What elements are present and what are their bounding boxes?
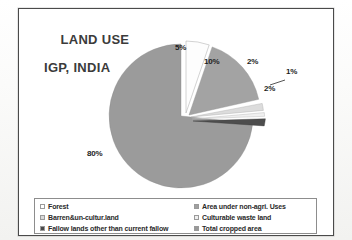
legend-label: Culturable waste land [202,213,271,222]
legend-item-culturable-waste-land[interactable]: Culturable waste land [193,212,315,222]
legend-label: Total cropped area [202,224,261,233]
pie-chart: 5% 10% 2% 1% 2% 80% [19,9,333,195]
scanned-page-background: LAND USE IGP, INDIA 5% [0,0,352,240]
legend-swatch-icon [194,204,199,209]
legend-item-total-cropped-area[interactable]: Total cropped area [193,223,315,233]
legend-swatch-icon [40,226,45,231]
legend-item-fallow-lands[interactable]: Fallow lands other than current fallow [39,223,189,233]
legend-label: Fallow lands other than current fallow [48,224,168,233]
pie-label-forest: 5% [175,43,186,52]
legend-item-area-under-non-agri-uses[interactable]: Area under non-agri. Uses [193,201,315,211]
pie-label-total-cropped-area: 80% [87,149,102,158]
chart-frame: LAND USE IGP, INDIA 5% [18,8,334,236]
legend-swatch-icon [194,226,199,231]
legend-item-barren-un-cultur-land[interactable]: Barren&un-cultur.land [39,212,189,222]
chart-legend: Forest Barren&un-cultur.land Fallow land… [34,198,317,234]
legend-swatch-icon [40,204,45,209]
legend-item-forest[interactable]: Forest [39,201,189,211]
legend-label: Barren&un-cultur.land [48,213,119,222]
legend-swatch-icon [194,215,199,220]
legend-label: Forest [48,202,69,211]
legend-column-right: Area under non-agri. Uses Culturable was… [193,201,315,234]
legend-label: Area under non-agri. Uses [202,202,286,211]
pie-label-barren-un-cultur-land: 2% [247,57,258,66]
pie-chart-svg [19,9,333,195]
pie-label-culturable-waste-land: 1% [286,67,297,76]
pie-label-fallow-lands: 2% [264,84,275,93]
legend-swatch-icon [40,215,45,220]
legend-column-left: Forest Barren&un-cultur.land Fallow land… [39,201,189,234]
pie-label-area-under-non-agri-uses: 10% [204,57,219,66]
